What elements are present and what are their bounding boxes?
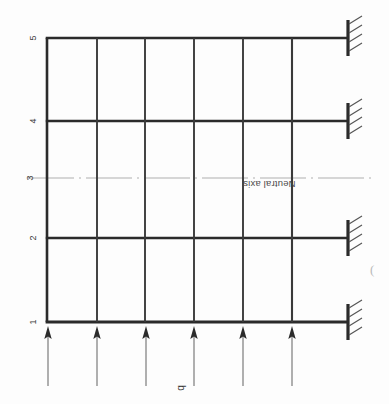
load-arrow <box>239 326 246 386</box>
load-arrow <box>142 326 149 386</box>
support-row-2 <box>348 216 362 256</box>
row-label-1: 1 <box>27 315 39 329</box>
load-arrow <box>190 326 197 386</box>
support-row-4 <box>348 99 362 139</box>
load-label-q: q <box>175 381 187 395</box>
neutral-axis-label: Neutral axis <box>243 178 296 191</box>
load-arrow <box>288 326 295 386</box>
row-label-2: 2 <box>27 231 39 245</box>
support-row-1 <box>348 300 362 340</box>
frame-svg <box>0 0 389 404</box>
row-label-3: 3 <box>24 171 36 185</box>
support-row-5 <box>348 16 362 56</box>
row-label-4: 4 <box>27 114 39 128</box>
load-arrows <box>44 326 295 386</box>
load-arrow <box>44 326 51 386</box>
load-arrow <box>93 326 100 386</box>
row-label-5: 5 <box>27 31 39 45</box>
structural-frame-diagram: 5 4 3 2 1 Neutral axis q ( <box>0 0 389 404</box>
figure-number-mark: ( <box>370 262 374 278</box>
